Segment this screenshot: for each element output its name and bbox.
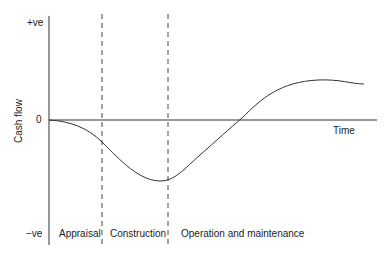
y-tick-positive: +ve xyxy=(27,18,43,28)
y-tick-zero: 0 xyxy=(36,115,42,125)
y-axis-label: Cash flow xyxy=(14,99,24,143)
phase-label-appraisal: Appraisal xyxy=(59,229,101,239)
phase-label-operation: Operation and maintenance xyxy=(181,229,304,239)
y-tick-negative: −ve xyxy=(26,229,42,239)
x-axis-label: Time xyxy=(333,126,355,136)
phase-label-construction: Construction xyxy=(110,229,166,239)
cash-flow-curve xyxy=(49,80,364,181)
